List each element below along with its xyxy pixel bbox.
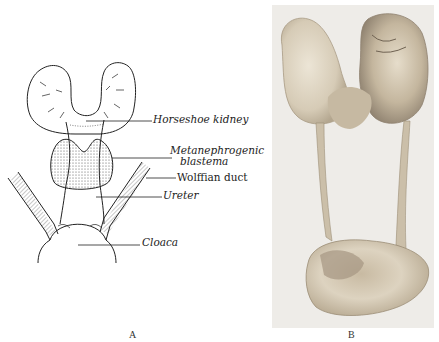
figure: Horseshoe kidney Metanephrogenic blastem… (0, 0, 439, 342)
label-horseshoe-kidney: Horseshoe kidney (153, 114, 248, 125)
isthmus (328, 87, 372, 129)
label-wolffian-duct: Wolffian duct (177, 172, 248, 183)
label-ureter: Ureter (163, 190, 199, 201)
bladder (306, 240, 429, 316)
kidney-outline (27, 63, 135, 134)
label-cloaca: Cloaca (142, 237, 178, 248)
metanephrogenic-blastema (51, 139, 113, 189)
label-blastema: blastema (180, 156, 228, 167)
label-metanephrogenic: Metanephrogenic (170, 145, 264, 156)
ureter-right-photo (396, 121, 410, 249)
panel-b-photograph (272, 5, 434, 328)
panel-label-b: B (348, 330, 355, 340)
panel-a-drawing: Horseshoe kidney Metanephrogenic blastem… (0, 0, 262, 342)
specimen-photo (272, 5, 434, 328)
ureter-left-photo (316, 123, 332, 241)
panel-label-a: A (129, 330, 136, 340)
